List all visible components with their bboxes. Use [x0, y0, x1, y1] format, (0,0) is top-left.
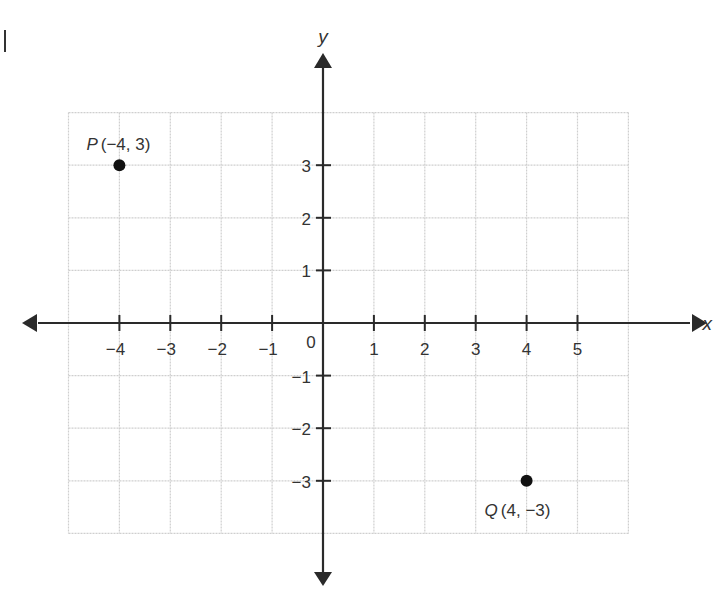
- tick-labels: −4−3−2−112345321−1−2−30: [106, 157, 583, 492]
- x-tick-label: −3: [157, 340, 176, 359]
- x-tick-label: 5: [573, 340, 582, 359]
- coordinate-plane: xy −4−3−2−112345321−1−2−30 P(−4, 3)Q(4, …: [0, 0, 715, 595]
- x-tick-label: −2: [208, 340, 227, 359]
- origin-label: 0: [306, 333, 315, 352]
- y-tick-label: −3: [292, 473, 311, 492]
- data-points: P(−4, 3)Q(4, −3): [86, 135, 550, 520]
- point-label-q: Q(4, −3): [485, 501, 551, 520]
- point-q: [521, 475, 533, 487]
- axes: xy: [22, 26, 714, 586]
- x-axis-label: x: [702, 313, 714, 334]
- point-p: [113, 159, 125, 171]
- x-tick-label: −4: [106, 340, 125, 359]
- x-tick-label: 1: [369, 340, 378, 359]
- y-tick-label: −1: [292, 368, 311, 387]
- y-tick-label: 3: [302, 157, 311, 176]
- y-axis-down-arrow-icon: [314, 572, 332, 586]
- y-axis-up-arrow-icon: [314, 53, 332, 68]
- y-tick-label: 2: [302, 210, 311, 229]
- point-label-p: P(−4, 3): [86, 135, 150, 154]
- x-tick-label: 3: [471, 340, 480, 359]
- x-tick-label: 2: [420, 340, 429, 359]
- y-axis-label: y: [316, 26, 329, 47]
- x-tick-label: 4: [522, 340, 531, 359]
- y-tick-label: 1: [302, 262, 311, 281]
- x-tick-label: −1: [258, 340, 277, 359]
- x-axis-left-arrow-icon: [22, 314, 37, 332]
- y-tick-label: −2: [292, 420, 311, 439]
